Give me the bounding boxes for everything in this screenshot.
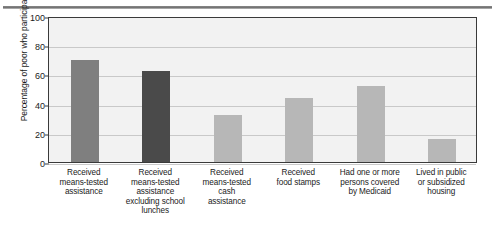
x-axis-category-label: Had one or morepersons coveredby Medicai… bbox=[331, 168, 409, 197]
bar bbox=[214, 115, 242, 162]
y-tick-mark bbox=[45, 76, 49, 77]
y-tick-mark bbox=[45, 134, 49, 135]
gridline bbox=[49, 47, 476, 48]
bar bbox=[428, 139, 456, 162]
bar bbox=[285, 98, 313, 162]
x-axis-category-label: Receivedmeans-testedassistanceexcluding … bbox=[117, 168, 195, 216]
x-axis-category-line: Received bbox=[117, 168, 195, 178]
x-axis-category-line: assistance bbox=[45, 187, 123, 197]
y-tick-label: 40 bbox=[35, 101, 45, 111]
gridline bbox=[49, 76, 476, 77]
y-tick-label: 100 bbox=[30, 13, 45, 23]
y-tick-label: 60 bbox=[35, 71, 45, 81]
x-axis-category-line: lunches bbox=[117, 206, 195, 216]
x-axis-category-line: cash bbox=[188, 187, 266, 197]
x-axis-category-label: Receivedmeans-testedcashassistance bbox=[188, 168, 266, 206]
gridline bbox=[49, 106, 476, 107]
x-axis-category-label: Receivedmeans-testedassistance bbox=[45, 168, 123, 197]
plot-area: 020406080100 bbox=[48, 17, 477, 163]
y-tick-mark bbox=[45, 47, 49, 48]
x-axis-category-line: by Medicaid bbox=[331, 187, 409, 197]
x-axis-category-line: means-tested bbox=[45, 178, 123, 188]
bar bbox=[357, 86, 385, 162]
y-tick-mark bbox=[45, 164, 49, 165]
x-axis-category-line: assistance bbox=[117, 187, 195, 197]
x-axis-category-label: Lived in publicor subsidizedhousing bbox=[403, 168, 481, 197]
y-tick-label: 20 bbox=[35, 130, 45, 140]
bar bbox=[71, 60, 99, 162]
x-axis-category-line: Lived in public bbox=[403, 168, 481, 178]
plot-inner: 020406080100 bbox=[49, 18, 476, 162]
y-axis-title: Percentage of poor who participate bbox=[19, 0, 29, 137]
x-axis-category-line: housing bbox=[403, 187, 481, 197]
bar-chart-figure: Percentage of poor who participate 02040… bbox=[0, 0, 495, 239]
x-axis-category-line: means-tested bbox=[117, 178, 195, 188]
x-axis-category-line: Received bbox=[188, 168, 266, 178]
x-axis-category-line: or subsidized bbox=[403, 178, 481, 188]
x-axis-category-line: persons covered bbox=[331, 178, 409, 188]
y-tick-mark bbox=[45, 18, 49, 19]
x-axis-category-line: Had one or more bbox=[331, 168, 409, 178]
gridline bbox=[49, 135, 476, 136]
x-axis-category-line: excluding school bbox=[117, 197, 195, 207]
y-tick-label: 80 bbox=[35, 42, 45, 52]
top-divider-rule bbox=[3, 6, 492, 9]
x-axis-category-line: Received bbox=[45, 168, 123, 178]
gridline bbox=[49, 164, 476, 165]
x-axis-category-line: food stamps bbox=[260, 178, 338, 188]
x-axis-category-line: assistance bbox=[188, 197, 266, 207]
bar bbox=[142, 71, 170, 162]
x-axis-category-line: means-tested bbox=[188, 178, 266, 188]
x-axis-category-line: Received bbox=[260, 168, 338, 178]
x-axis-category-label: Receivedfood stamps bbox=[260, 168, 338, 187]
y-tick-mark bbox=[45, 105, 49, 106]
